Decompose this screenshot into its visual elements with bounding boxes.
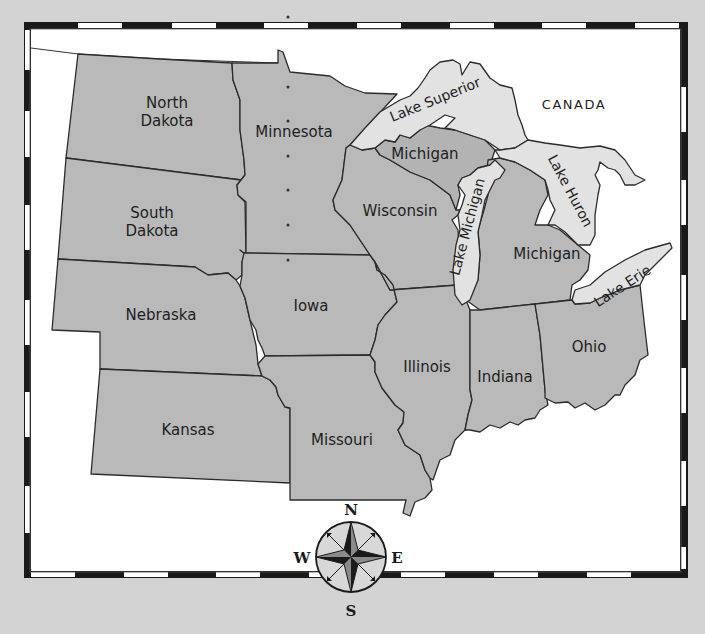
label-ohio: Ohio [572,338,607,356]
label-south-dakota-1: South [130,204,174,222]
midwest-map: North Dakota South Dakota Nebraska Kansa… [0,0,705,634]
label-south-dakota-2: Dakota [125,222,178,240]
compass-east: E [391,549,402,567]
label-north-dakota-2: Dakota [140,112,193,130]
label-nebraska: Nebraska [126,306,197,324]
compass-west: W [293,549,312,567]
label-michigan-upper: Michigan [391,145,458,163]
label-indiana: Indiana [477,368,533,386]
label-wisconsin: Wisconsin [363,202,438,220]
label-iowa: Iowa [293,297,328,315]
label-illinois: Illinois [403,358,451,376]
label-north-dakota-1: North [146,94,188,112]
label-kansas: Kansas [161,421,214,439]
label-michigan-lower: Michigan [513,245,580,263]
label-minnesota: Minnesota [255,123,332,141]
compass-south: S [346,602,357,620]
label-missouri: Missouri [311,431,373,449]
label-canada: CANADA [542,97,606,112]
compass-north: N [344,501,358,519]
